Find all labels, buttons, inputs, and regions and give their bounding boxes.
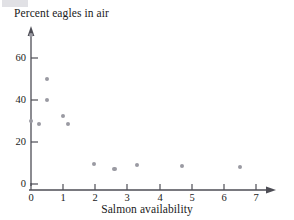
- data-point: [92, 162, 96, 166]
- x-tick-label-7: 7: [248, 192, 264, 203]
- data-point: [29, 33, 33, 37]
- y-tick-label-0: 0: [8, 178, 26, 189]
- x-tick-label-4: 4: [152, 192, 168, 203]
- x-tick-label-0: 0: [23, 192, 39, 203]
- x-tick-label-6: 6: [216, 192, 232, 203]
- y-tick-label-20: 20: [8, 136, 26, 147]
- x-tick-label-2: 2: [87, 192, 103, 203]
- x-axis-label: Salmon availability: [0, 203, 294, 215]
- x-tick-label-3: 3: [119, 192, 135, 203]
- y-tick-label-40: 40: [8, 94, 26, 105]
- x-tick-label-5: 5: [184, 192, 200, 203]
- plot-axes: [0, 0, 294, 220]
- data-point: [238, 165, 242, 169]
- x-tick-marks: [31, 183, 256, 190]
- x-axis-arrowhead: [266, 186, 276, 193]
- scatter-plot-figure: Percent eagles in air 60 40 20 0: [0, 0, 294, 220]
- y-axis-group: [28, 26, 35, 186]
- x-tick-label-1: 1: [55, 192, 71, 203]
- data-point: [61, 114, 65, 118]
- y-tick-label-60: 60: [8, 52, 26, 63]
- data-point: [112, 167, 116, 171]
